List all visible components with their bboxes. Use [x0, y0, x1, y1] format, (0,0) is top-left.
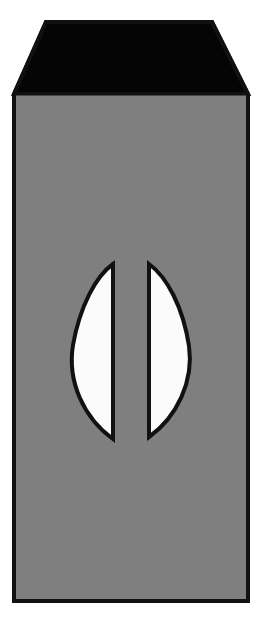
- illustration-svg: [0, 0, 262, 622]
- figure-canvas: Abstract geometric figure Tall rectangul…: [0, 0, 262, 622]
- top-face-polygon: [14, 22, 248, 94]
- body-face-rect: [14, 94, 248, 601]
